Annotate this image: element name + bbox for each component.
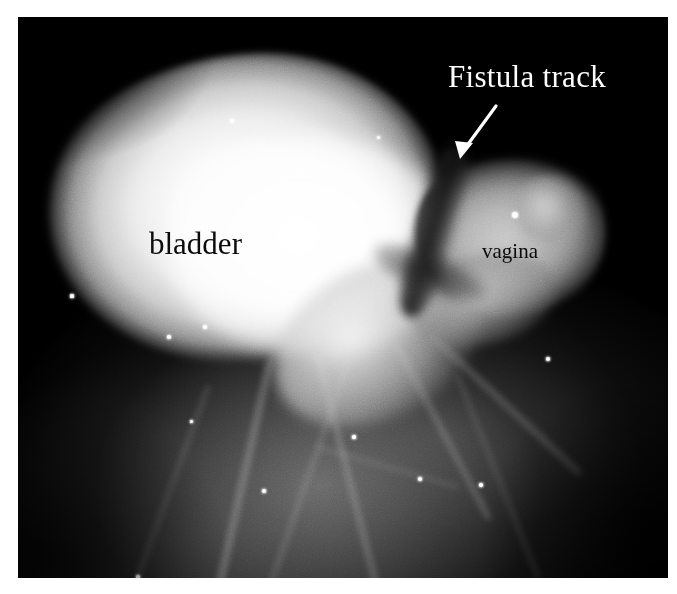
fistula-track-label: Fistula track — [448, 61, 606, 92]
calcific-speck — [377, 136, 380, 139]
calcific-speck — [167, 335, 171, 339]
soft-tissue-line — [318, 447, 458, 487]
bladder-label: bladder — [149, 228, 242, 259]
radiograph-page: Fistula track bladder vagina — [0, 0, 677, 594]
vagina-label: vagina — [482, 241, 538, 262]
calcific-speck — [288, 213, 291, 216]
calcific-speck — [70, 294, 73, 297]
vagina-apex — [516, 175, 586, 245]
calcific-speck — [190, 420, 193, 423]
calcific-speck — [262, 489, 266, 493]
fistula-track-arrow — [433, 97, 523, 177]
calcific-speck — [352, 435, 355, 438]
calcific-speck — [136, 575, 140, 578]
radiograph-film: Fistula track bladder vagina — [18, 17, 668, 578]
soft-tissue-line — [138, 387, 208, 577]
calcific-speck — [203, 325, 207, 329]
calcific-speck — [479, 483, 482, 486]
